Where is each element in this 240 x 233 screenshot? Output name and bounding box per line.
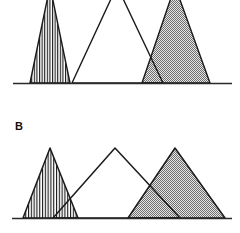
- panel-a: [0, 0, 240, 90]
- panel-b-right-triangle: [128, 148, 225, 218]
- panel-b-left-triangle: [23, 148, 78, 218]
- panel-a-left-triangle: [30, 0, 70, 83]
- figure-root: B: [0, 0, 240, 233]
- panel-a-plot: [0, 0, 240, 90]
- panel-b-plot: [0, 130, 240, 233]
- panel-a-right-triangle: [142, 0, 210, 83]
- panel-b: [0, 130, 240, 233]
